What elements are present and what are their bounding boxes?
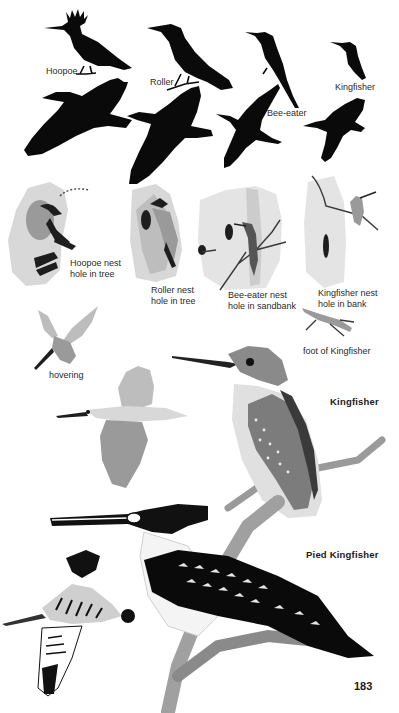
nest-label-hoopoe: Hoopoe nest hole in tree <box>70 258 121 280</box>
silhouette-label-hoopoe: Hoopoe <box>46 66 78 77</box>
bee-eater-nest-illustration <box>196 180 296 292</box>
roller-flying-silhouette <box>125 86 217 186</box>
species-label-pied-kingfisher: Pied Kingfisher <box>306 549 379 560</box>
nest-label-hoopoe-line1: Hoopoe nest <box>70 258 121 269</box>
nest-label-kingfisher-line1: Kingfisher nest <box>318 288 378 299</box>
kingfisher-nest-illustration <box>304 172 394 292</box>
nest-label-roller: Roller nest hole in tree <box>151 285 196 307</box>
kingfisher-foot-illustration <box>300 306 356 342</box>
bee-eater-flying-silhouette <box>216 84 284 170</box>
kingfisher-perched-silhouette <box>330 38 370 82</box>
nest-label-hoopoe-line2: hole in tree <box>70 269 121 280</box>
species-label-kingfisher: Kingfisher <box>330 396 379 407</box>
nest-label-bee-eater: Bee-eater nest hole in sandbank <box>228 290 296 312</box>
nest-label-roller-line1: Roller nest <box>151 285 196 296</box>
pied-kingfisher-flying-illustration <box>2 548 136 698</box>
hovering-kingfisher-illustration <box>30 306 102 372</box>
roller-nest-illustration <box>126 180 186 284</box>
nest-label-roller-line2: hole in tree <box>151 296 196 307</box>
nest-label-bee-eater-line2: hole in sandbank <box>228 301 296 312</box>
silhouette-label-kingfisher: Kingfisher <box>335 82 375 93</box>
hoopoe-flying-silhouette <box>22 78 134 158</box>
page-number: 183 <box>354 680 372 692</box>
kingfisher-flying-silhouette <box>303 96 365 166</box>
nest-label-bee-eater-line1: Bee-eater nest <box>228 290 296 301</box>
